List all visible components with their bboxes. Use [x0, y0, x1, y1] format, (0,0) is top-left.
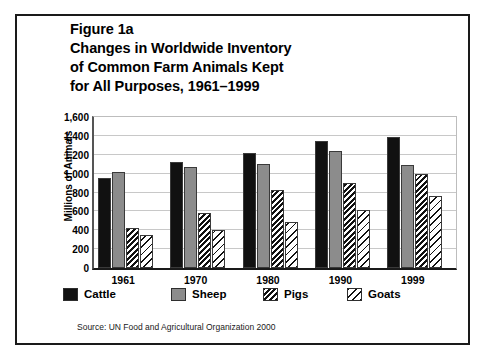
- bars-layer: [94, 117, 456, 268]
- title-line-1: Figure 1a: [70, 20, 450, 39]
- legend-item-goats: Goats: [347, 288, 401, 301]
- title-line-3: of Common Farm Animals Kept: [70, 58, 450, 77]
- x-axis-tick-label: 1980: [256, 274, 279, 286]
- plot-area: 02004006008001,0001,2001,4001,600: [92, 116, 457, 270]
- bar-sheep-1990: [329, 151, 342, 268]
- source-note: Source: UN Food and Agricultural Organiz…: [77, 322, 275, 332]
- bar-cattle-1980: [243, 153, 256, 268]
- title-line-2: Changes in Worldwide Inventory: [70, 39, 450, 58]
- bar-goats-1970: [212, 230, 225, 268]
- legend-label-pigs: Pigs: [284, 288, 308, 300]
- figure-frame: Figure 1a Changes in Worldwide Inventory…: [15, 14, 470, 345]
- y-axis-tick-label: 200: [72, 244, 89, 255]
- bar-sheep-1970: [184, 167, 197, 268]
- bar-cattle-1990: [315, 141, 328, 268]
- x-axis-tick-label: 1990: [329, 274, 352, 286]
- bar-cattle-1999: [387, 137, 400, 268]
- y-axis-tick-label: 400: [72, 225, 89, 236]
- y-axis-tick-label: 1,200: [64, 149, 89, 160]
- legend-label-sheep: Sheep: [192, 288, 227, 300]
- bar-goats-1980: [285, 222, 298, 268]
- y-axis-tick-label: 1,000: [64, 168, 89, 179]
- legend-swatch-goats-icon: [347, 288, 362, 301]
- bar-pigs-1999: [415, 174, 428, 268]
- legend-item-pigs: Pigs: [263, 288, 308, 301]
- bar-pigs-1990: [343, 183, 356, 268]
- y-axis-tick-label: 1,400: [64, 130, 89, 141]
- bar-group-1999: [387, 117, 442, 268]
- y-axis-tick-label: 1,600: [64, 112, 89, 123]
- bar-pigs-1980: [271, 190, 284, 268]
- figure-title: Figure 1a Changes in Worldwide Inventory…: [70, 20, 450, 96]
- bar-pigs-1961: [126, 228, 139, 268]
- bar-pigs-1970: [198, 213, 211, 268]
- title-line-4: for All Purposes, 1961–1999: [70, 77, 450, 96]
- x-axis-tick-label: 1961: [112, 274, 135, 286]
- x-axis-tick-label: 1970: [184, 274, 207, 286]
- legend-swatch-pigs-icon: [263, 288, 278, 301]
- bar-sheep-1980: [257, 164, 270, 268]
- bar-group-1990: [315, 117, 370, 268]
- bar-sheep-1999: [401, 165, 414, 268]
- x-axis-tick-label: 1999: [401, 274, 424, 286]
- y-axis-tick-label: 800: [72, 187, 89, 198]
- y-axis-tick-label: 600: [72, 206, 89, 217]
- bar-group-1980: [243, 117, 298, 268]
- bar-cattle-1961: [98, 178, 111, 268]
- legend-item-cattle: Cattle: [63, 288, 116, 301]
- legend-label-cattle: Cattle: [84, 288, 116, 300]
- legend-swatch-sheep-icon: [171, 288, 186, 301]
- bar-goats-1999: [429, 196, 442, 268]
- bar-cattle-1970: [170, 162, 183, 268]
- bar-goats-1961: [140, 235, 153, 268]
- bar-group-1970: [170, 117, 225, 268]
- bar-sheep-1961: [112, 172, 125, 268]
- bar-goats-1990: [357, 210, 370, 268]
- legend-swatch-cattle-icon: [63, 288, 78, 301]
- y-axis-tick-label: 0: [83, 263, 89, 274]
- legend-label-goats: Goats: [368, 288, 401, 300]
- bar-group-1961: [98, 117, 153, 268]
- legend-item-sheep: Sheep: [171, 288, 227, 301]
